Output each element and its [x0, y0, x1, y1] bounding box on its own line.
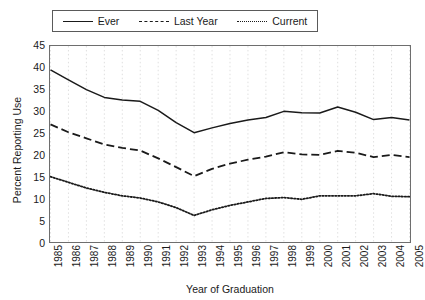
- y-tick-label: 5: [1, 216, 45, 227]
- x-axis-label: Year of Graduation: [49, 283, 411, 295]
- x-tick-label: 1999: [306, 245, 316, 267]
- y-tick-label: 25: [1, 128, 45, 139]
- legend-label-last-year: Last Year: [174, 15, 218, 27]
- x-tick-label: 1993: [198, 245, 208, 267]
- x-axis-ticks: 1985198619871988198919901991199219931994…: [49, 245, 411, 287]
- x-tick-label: 2000: [324, 245, 334, 267]
- x-tick-label: 2003: [378, 245, 388, 267]
- x-tick-label: 1991: [162, 245, 172, 267]
- x-tick-label: 1992: [180, 245, 190, 267]
- chart-figure: Ever Last Year Current 05101520253035404…: [0, 0, 425, 300]
- legend-label-ever: Ever: [98, 15, 120, 27]
- x-tick-label: 2001: [342, 245, 352, 267]
- x-tick-label: 1987: [90, 245, 100, 267]
- dashed-line-icon: [139, 16, 169, 26]
- y-tick-label: 35: [1, 84, 45, 95]
- series-line-ever: [50, 70, 409, 133]
- x-tick-label: 1998: [288, 245, 298, 267]
- plot-svg: [50, 46, 410, 242]
- x-tick-label: 1988: [108, 245, 118, 267]
- chart-legend: Ever Last Year Current: [52, 10, 318, 32]
- x-tick-label: 1986: [72, 245, 82, 267]
- legend-label-current: Current: [272, 15, 307, 27]
- y-tick-label: 45: [1, 40, 45, 51]
- x-tick-label: 2004: [396, 245, 406, 267]
- x-tick-label: 1989: [126, 245, 136, 267]
- x-tick-label: 1996: [252, 245, 262, 267]
- x-tick-label: 1985: [54, 245, 64, 267]
- y-tick-label: 15: [1, 172, 45, 183]
- x-tick-label: 1995: [234, 245, 244, 267]
- legend-entry-last-year: Last Year: [139, 15, 218, 27]
- legend-entry-ever: Ever: [63, 15, 120, 27]
- x-tick-label: 2005: [415, 245, 425, 267]
- solid-line-icon: [63, 16, 93, 26]
- grid-lines: [50, 46, 409, 242]
- x-tick-label: 1990: [144, 245, 154, 267]
- y-tick-label: 10: [1, 194, 45, 205]
- x-tick-label: 1994: [216, 245, 226, 267]
- y-tick-label: 40: [1, 62, 45, 73]
- dotted-line-icon: [237, 16, 267, 26]
- x-tick-label: 1997: [270, 245, 280, 267]
- y-tick-label: 0: [1, 238, 45, 249]
- y-axis-label: Percent Reporting Use: [11, 70, 23, 230]
- plot-area: [49, 45, 411, 243]
- legend-entry-current: Current: [237, 15, 307, 27]
- y-tick-label: 20: [1, 150, 45, 161]
- y-tick-label: 30: [1, 106, 45, 117]
- x-tick-label: 2002: [360, 245, 370, 267]
